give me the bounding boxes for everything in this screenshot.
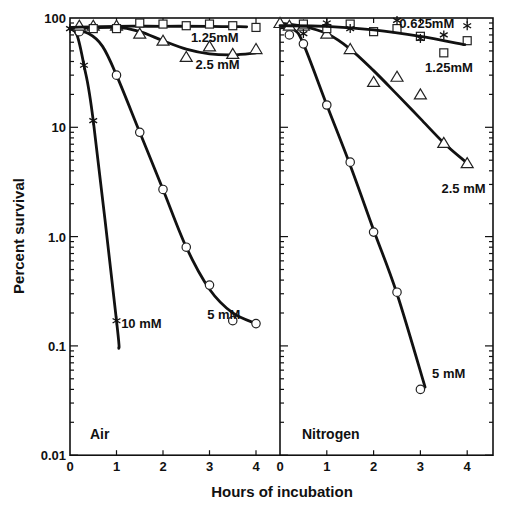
x-tick-label: 4 <box>464 459 472 474</box>
x-tick-label: 4 <box>252 459 260 474</box>
circle-marker <box>159 185 167 193</box>
circle-marker <box>346 158 354 166</box>
x-tick-label: 0 <box>66 459 73 474</box>
square-marker <box>113 25 121 33</box>
y-tick-label: 100 <box>44 11 66 26</box>
circle-marker <box>205 281 213 289</box>
series-label: 5 mM <box>207 307 240 322</box>
circle-marker <box>416 385 424 393</box>
panel-air: Air10 mM5 mM2.5 mM1.25mM <box>66 19 262 442</box>
fitted-curve <box>70 29 256 324</box>
x-tick-label: 3 <box>206 459 213 474</box>
x-tick-label: 1 <box>323 459 330 474</box>
circle-marker <box>369 228 377 236</box>
square-marker <box>252 23 260 31</box>
x-tick-label: 2 <box>159 459 166 474</box>
series-label: 0.625mM <box>399 16 454 31</box>
panel-label: Nitrogen <box>302 426 360 442</box>
triangle-marker <box>250 44 262 54</box>
series-label: 2.5 mM <box>441 181 485 196</box>
x-tick-label: 2 <box>370 459 377 474</box>
star-marker <box>89 116 97 125</box>
series-label: 5 mM <box>432 366 465 381</box>
x-tick-label: 3 <box>417 459 424 474</box>
series-label: 10 mM <box>121 316 161 331</box>
square-marker <box>440 49 448 57</box>
circle-marker <box>136 128 144 136</box>
circle-marker <box>252 319 260 327</box>
triangle-marker <box>414 89 426 99</box>
panel-nitrogen: Nitrogen5 mM2.5 mM1.25mM0.625mM <box>274 16 486 442</box>
series-label: 2.5 mM <box>196 57 240 72</box>
square-marker <box>136 19 144 27</box>
circle-marker <box>112 71 120 79</box>
triangle-marker <box>180 51 192 61</box>
circle-marker <box>323 101 331 109</box>
fitted-curve <box>280 26 425 387</box>
y-tick-label: 10 <box>52 120 66 135</box>
y-tick-label: 0.1 <box>48 339 66 354</box>
y-tick-label: 0.01 <box>41 448 66 463</box>
x-axis-label: Hours of incubation <box>211 483 353 500</box>
triangle-marker <box>73 20 85 30</box>
series-label: 1.25mM <box>425 60 473 75</box>
square-marker <box>182 22 190 30</box>
x-tick-label: 1 <box>113 459 120 474</box>
triangle-marker <box>391 71 403 81</box>
square-marker <box>229 22 237 30</box>
square-marker <box>159 20 167 28</box>
triangle-marker <box>368 76 380 86</box>
y-axis-label: Percent survival <box>10 178 27 294</box>
star-marker <box>80 61 88 70</box>
fitted-curve <box>70 29 119 349</box>
x-tick-label: 0 <box>276 459 283 474</box>
star-marker <box>440 30 448 39</box>
survival-chart: 100101.00.10.010123401234 Air10 mM5 mM2.… <box>0 0 509 510</box>
panel-label: Air <box>90 426 110 442</box>
square-marker <box>89 25 97 33</box>
series-5mm: 5 mM <box>70 27 260 327</box>
circle-marker <box>299 40 307 48</box>
star-marker <box>463 21 471 30</box>
circle-marker <box>393 288 401 296</box>
circle-marker <box>182 243 190 251</box>
star-marker <box>113 316 121 325</box>
series-label: 1.25mM <box>191 30 239 45</box>
circle-marker <box>285 31 293 39</box>
square-marker <box>206 20 214 28</box>
y-tick-label: 1.0 <box>48 230 66 245</box>
